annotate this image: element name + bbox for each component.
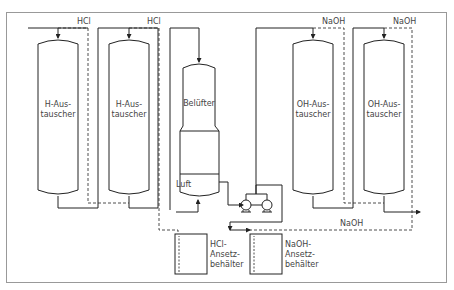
stream-label-naoh-1: NaOH — [322, 17, 345, 27]
vessel-label-h2: H-Aus-tauscher — [112, 100, 147, 120]
tank-label-naoh: NaOH-Ansetz-behälter — [285, 240, 319, 270]
vessel-label-h1: H-Aus-tauscher — [41, 100, 76, 120]
vessel-label-oh2: OH-Aus-tauscher — [367, 100, 402, 120]
vessel-label-beluefter: Belüfter — [183, 99, 215, 109]
stream-label-hcl-1: HCl — [77, 17, 91, 27]
stream-label-naoh-2: NaOH — [393, 17, 416, 27]
vessel-label-oh1: OH-Aus-tauscher — [296, 100, 331, 120]
vessel-beluefter — [180, 64, 219, 196]
stream-label-luft: Luft — [176, 180, 191, 190]
tank-hcl — [175, 234, 207, 274]
tank-label-hcl: HCl-Ansetz-behälter — [210, 240, 244, 270]
stream-label-hcl-2: HCl — [147, 17, 161, 27]
stream-label-naoh-bottom: NaOH — [340, 219, 363, 229]
pump-2 — [262, 200, 272, 210]
tank-naoh — [250, 234, 282, 274]
